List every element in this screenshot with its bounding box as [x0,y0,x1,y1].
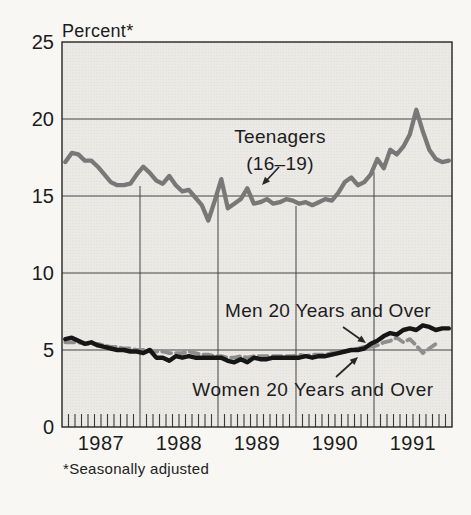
y-tick-label: 25 [32,30,54,54]
footnote: *Seasonally adjusted [63,460,209,477]
y-tick-label: 10 [32,261,54,285]
x-tick-label: 1990 [295,432,375,455]
y-tick-label: 5 [43,338,54,362]
x-tick-label: 1991 [373,432,453,455]
teenagers-label: Teenagers (16–19) [205,123,355,177]
y-tick-label: 0 [43,415,54,439]
x-tick-label: 1987 [61,432,141,455]
y-tick-label: 15 [32,184,54,208]
y-tick-label: 20 [32,107,54,131]
men-label: Men 20 Years and Over [208,300,448,322]
teenagers-label-line1: Teenagers [234,126,325,147]
x-tick-label: 1988 [139,432,219,455]
x-tick-label: 1989 [217,432,297,455]
unemployment-rate-chart-page: Percent* 0510152025 19871988198919901991 [0,0,471,515]
plot-area [62,42,452,427]
women-label: Women 20 Years and Over [183,379,443,401]
teenagers-label-line2: (16–19) [246,153,314,174]
